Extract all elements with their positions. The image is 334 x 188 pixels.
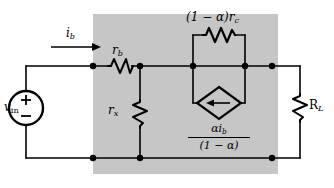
- dependent-source-numerator: αib: [188, 123, 250, 137]
- resistor-rx-label-subscript: x: [114, 108, 119, 118]
- resistor-rc-label: (1 − α)rc: [186, 11, 239, 24]
- node-dot: [90, 63, 96, 69]
- fraction-bar: [188, 137, 250, 138]
- dependent-source-numerator-subscript: b: [222, 127, 227, 136]
- resistor-rx-label: rx: [108, 104, 118, 117]
- node-dot: [137, 63, 143, 69]
- source-label-subscript: in: [11, 105, 19, 115]
- current-label: ib: [66, 27, 75, 40]
- node-dot: [242, 63, 248, 69]
- resistor-rb-label-subscript: b: [118, 48, 123, 58]
- source-label: vin: [4, 101, 19, 114]
- node-dot: [190, 63, 196, 69]
- resistor-rb-label: rb: [112, 44, 123, 57]
- dependent-source-denominator: (1 − α): [188, 139, 250, 152]
- node-dot: [90, 155, 96, 161]
- shaded-model-region: [93, 14, 278, 174]
- schematic-svg: [0, 0, 334, 188]
- resistor-load-label: RL: [309, 99, 323, 112]
- resistor-load-label-subscript: L: [318, 103, 323, 113]
- node-dot: [137, 155, 143, 161]
- current-label-subscript: b: [70, 31, 75, 41]
- dependent-source-label: αib (1 − α): [188, 123, 250, 151]
- node-dot: [269, 155, 275, 161]
- current-arrow-icon: [51, 43, 101, 51]
- resistor-load-symbol: [293, 94, 307, 122]
- node-dot: [269, 63, 275, 69]
- circuit-diagram: vin ib rb rx (1 − α)rc RL αib (1 − α): [0, 0, 334, 188]
- resistor-rc-label-subscript: c: [235, 15, 240, 25]
